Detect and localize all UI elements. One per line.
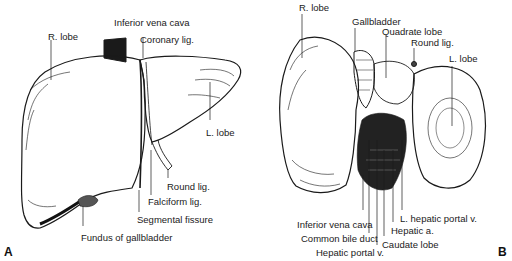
- liver-anatomy-figure: R. lobe Inferior vena cava Coronary lig.…: [0, 0, 512, 261]
- label-b-hepatic-portal-v: Hepatic portal v.: [316, 248, 384, 258]
- panel-b-liver-drawing: [280, 14, 486, 245]
- label-b-caudate-lobe: Caudate lobe: [382, 240, 439, 250]
- label-b-l-hepatic-portal-v: L. hepatic portal v.: [400, 214, 477, 224]
- label-a-coronary-lig: Coronary lig.: [140, 35, 194, 45]
- panel-letter-b: B: [498, 245, 507, 259]
- label-a-l-lobe: L. lobe: [206, 128, 235, 138]
- label-a-round-lig: Round lig.: [167, 182, 210, 192]
- label-a-segmental-fissure: Segmental fissure: [137, 215, 213, 225]
- label-b-hepatic-a: Hepatic a.: [391, 226, 434, 236]
- label-b-round-lig: Round lig.: [411, 38, 454, 48]
- label-a-r-lobe: R. lobe: [48, 32, 78, 42]
- label-b-l-lobe: L. lobe: [449, 54, 478, 64]
- label-b-common-bile-duct: Common bile duct: [301, 234, 378, 244]
- label-a-inferior-vena-cava: Inferior vena cava: [114, 18, 190, 28]
- label-a-falciform-lig: Falciform lig.: [148, 197, 202, 207]
- label-b-inferior-vena-cava: Inferior vena cava: [297, 220, 373, 230]
- label-a-fundus-of-gallbladder: Fundus of gallbladder: [81, 233, 172, 243]
- panel-letter-a: A: [4, 245, 13, 259]
- label-b-quadrate-lobe: Quadrate lobe: [382, 27, 442, 37]
- label-b-r-lobe: R. lobe: [299, 3, 329, 13]
